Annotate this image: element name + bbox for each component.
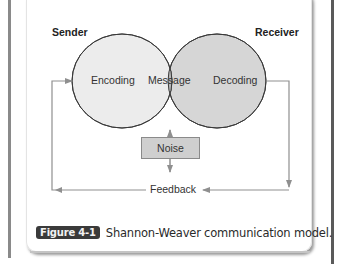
sender-label: Sender (52, 26, 88, 38)
receiver-label: Receiver (255, 26, 299, 38)
feedback-label: Feedback (150, 183, 196, 195)
decoding-label: Decoding (213, 74, 257, 86)
figure-caption: Figure 4-1 Shannon-Weaver communication … (36, 224, 332, 241)
decoding-to-feedback-line (266, 81, 289, 187)
feedback-left-arrowhead (55, 187, 62, 193)
noise-label: Noise (157, 142, 184, 154)
figure-number-badge: Figure 4-1 (36, 226, 100, 239)
message-label: Message (148, 74, 191, 86)
noise-box: Noise (141, 137, 200, 159)
encoding-label: Encoding (91, 74, 135, 86)
figure-caption-text: Shannon-Weaver communication model. (106, 226, 332, 240)
